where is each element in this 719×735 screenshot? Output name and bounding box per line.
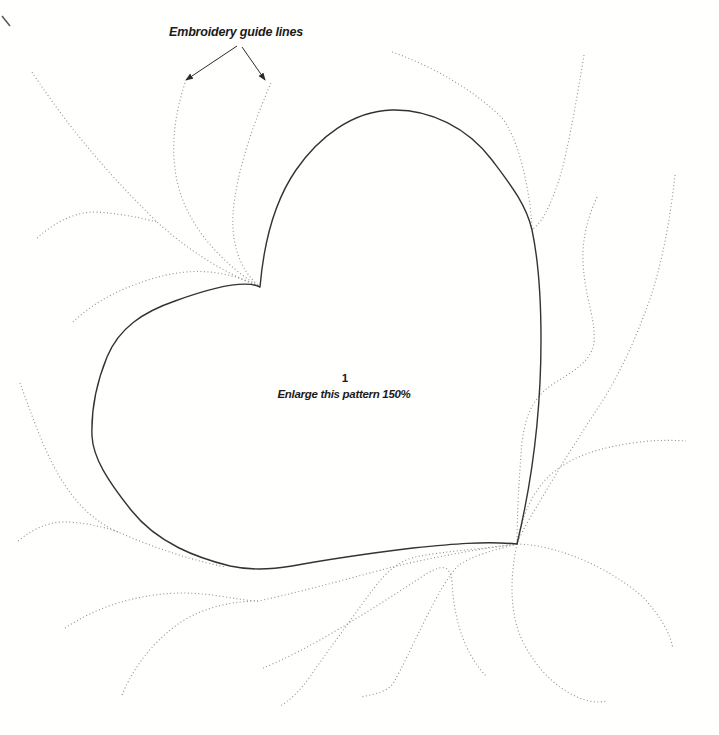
guide-right-upper-inner [392,52,532,230]
guide-point-under-loop [512,544,607,702]
guide-left-small-arc [18,522,118,541]
guide-point-sweep-outer [280,544,517,706]
guide-right-upper-outer [532,55,584,230]
heart-outline [92,110,541,569]
guide-top-left-diagonal [32,72,260,287]
guide-notch-inner-right [233,83,271,287]
guide-bottom-long-wave [65,544,517,628]
guide-bottom-left-riser [122,601,258,695]
pattern-page: Embroidery guide lines 1 Enlarge this pa… [0,0,719,735]
guide-notch-inner-left [174,83,260,287]
pattern-svg [0,0,719,735]
guide-point-right-loop [517,544,673,648]
guide-left-descender [20,383,226,567]
embroidery-guide-lines-label: Embroidery guide lines [169,25,303,39]
annotation-arrow-right [242,47,265,80]
guide-point-sweep-inner [361,544,517,697]
scan-mark [2,16,10,26]
guide-lines-group [18,52,686,706]
guide-point-northeast [517,440,686,544]
guide-bottom-hook [263,568,487,677]
guide-right-s-curve [517,197,597,544]
annotation-arrow-left [186,46,237,80]
guide-left-mid-arc [37,212,157,238]
pattern-number: 1 [342,372,348,384]
guide-lower-left-to-notch [73,272,260,322]
annotation-arrows-group [186,46,265,80]
enlarge-instruction: Enlarge this pattern 150% [277,388,410,400]
